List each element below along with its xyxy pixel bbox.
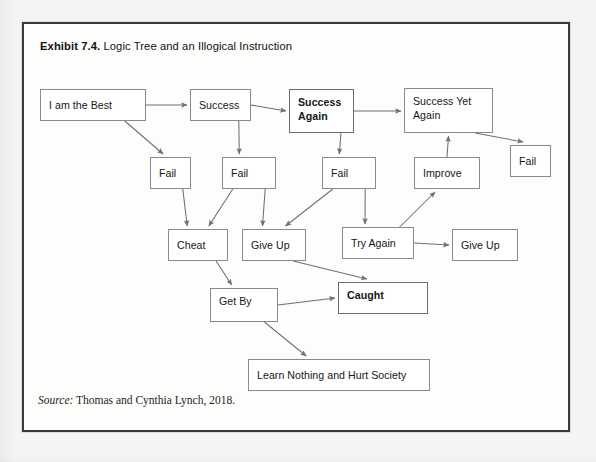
node-label: Success Yet Again	[413, 94, 471, 122]
edge-cheat-to-get-by	[216, 261, 232, 285]
edge-get-by-to-learn-nothing	[264, 322, 306, 356]
node-improve: Improve	[414, 157, 480, 189]
node-label: I am the Best	[49, 98, 112, 112]
node-label: Fail	[519, 154, 536, 168]
exhibit-frame: Exhibit 7.4. Logic Tree and an Illogical…	[22, 22, 570, 432]
node-try-again: Try Again	[342, 227, 414, 259]
node-fail-3: Fail	[322, 157, 376, 189]
node-success: Success	[190, 89, 251, 121]
node-label: Learn Nothing and Hurt Society	[257, 368, 406, 382]
node-cheat: Cheat	[168, 229, 228, 261]
edge-improve-to-success-yet-again	[447, 136, 449, 157]
node-fail-2: Fail	[222, 157, 276, 189]
node-success-again: Success Again	[289, 89, 354, 133]
node-label: Cheat	[177, 238, 206, 252]
node-label: Success	[199, 98, 239, 112]
scanned-page: Exhibit 7.4. Logic Tree and an Illogical…	[0, 0, 596, 462]
node-label: Fail	[159, 166, 176, 180]
edge-success-again-to-fail-3	[339, 133, 341, 154]
node-success-yet-again: Success Yet Again	[404, 88, 493, 133]
node-get-by: Get By	[210, 288, 278, 322]
node-label: Give Up	[251, 238, 290, 252]
node-label: Improve	[423, 166, 462, 180]
node-fail-4: Fail	[510, 145, 551, 177]
edge-success-to-success-again	[251, 105, 286, 111]
node-label: Caught	[347, 288, 384, 302]
edge-fail-1-to-cheat	[183, 189, 187, 226]
node-i-am-the-best: I am the Best	[40, 89, 146, 121]
edge-fail-2-to-cheat	[209, 189, 233, 226]
node-label: Get By	[219, 294, 252, 308]
node-label: Give Up	[461, 238, 500, 252]
edge-try-again-to-improve	[400, 192, 436, 227]
node-label: Try Again	[351, 236, 396, 250]
edge-get-by-to-caught	[278, 298, 335, 305]
node-label: Fail	[331, 166, 348, 180]
node-fail-1: Fail	[150, 157, 191, 189]
edge-try-again-to-give-up-2	[414, 243, 449, 245]
source-citation: Thomas and Cynthia Lynch, 2018.	[73, 394, 235, 406]
edge-fail-3-to-give-up-1	[286, 189, 333, 226]
logic-tree-diagram: I am the BestSuccessSuccess AgainSuccess…	[24, 24, 568, 430]
source-note: Source: Thomas and Cynthia Lynch, 2018.	[38, 394, 235, 406]
node-label: Success Again	[298, 95, 341, 123]
source-label: Source:	[38, 394, 73, 406]
node-give-up-2: Give Up	[452, 229, 518, 261]
node-label: Fail	[231, 166, 248, 180]
node-caught: Caught	[338, 282, 428, 314]
edge-success-yet-again-to-fail-4	[475, 133, 523, 142]
node-learn-nothing: Learn Nothing and Hurt Society	[248, 359, 430, 391]
node-give-up-1: Give Up	[242, 229, 306, 261]
edge-give-up-1-to-caught	[293, 261, 367, 279]
edge-fail-2-to-give-up-1	[262, 189, 265, 226]
edge-i-am-the-best-to-fail-1	[125, 121, 163, 154]
